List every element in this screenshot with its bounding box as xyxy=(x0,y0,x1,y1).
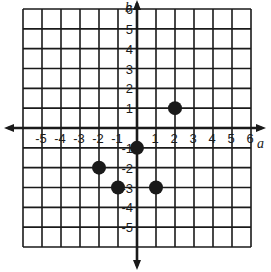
y-tick-label: 5 xyxy=(126,22,133,37)
x-tick-label: -4 xyxy=(54,131,66,146)
data-point xyxy=(111,181,125,195)
x-axis-label: a xyxy=(257,136,264,151)
x-axis-right-arrow-icon xyxy=(256,124,266,132)
data-point xyxy=(168,101,182,115)
x-tick-label: -3 xyxy=(73,131,85,146)
data-point xyxy=(149,181,163,195)
x-tick-label: 3 xyxy=(189,131,196,146)
coordinate-plane: -5-4-3-2-1123456654321-1-2-3-4-5 a b xyxy=(0,0,271,272)
x-tick-label: 1 xyxy=(151,131,158,146)
y-tick-label: -2 xyxy=(121,161,133,176)
data-point xyxy=(130,141,144,155)
y-tick-label: 4 xyxy=(126,42,133,57)
x-tick-label: 5 xyxy=(227,131,234,146)
y-axis-label: b xyxy=(125,0,132,15)
tick-labels: -5-4-3-2-1123456654321-1-2-3-4-5 xyxy=(35,2,253,235)
x-tick-label: -5 xyxy=(35,131,47,146)
y-tick-label: -5 xyxy=(121,220,133,235)
x-tick-label: 4 xyxy=(208,131,215,146)
y-axis-up-arrow-icon xyxy=(133,0,141,10)
data-point xyxy=(92,161,106,175)
y-axis-down-arrow-icon xyxy=(133,260,141,270)
x-tick-label: -2 xyxy=(92,131,104,146)
y-tick-label: -4 xyxy=(121,200,133,215)
y-tick-label: 2 xyxy=(126,81,133,96)
x-tick-label: 6 xyxy=(246,131,253,146)
y-tick-label: 3 xyxy=(126,62,133,77)
y-tick-label: 1 xyxy=(126,101,133,116)
x-tick-label: 2 xyxy=(170,131,177,146)
x-axis-left-arrow-icon xyxy=(4,124,14,132)
